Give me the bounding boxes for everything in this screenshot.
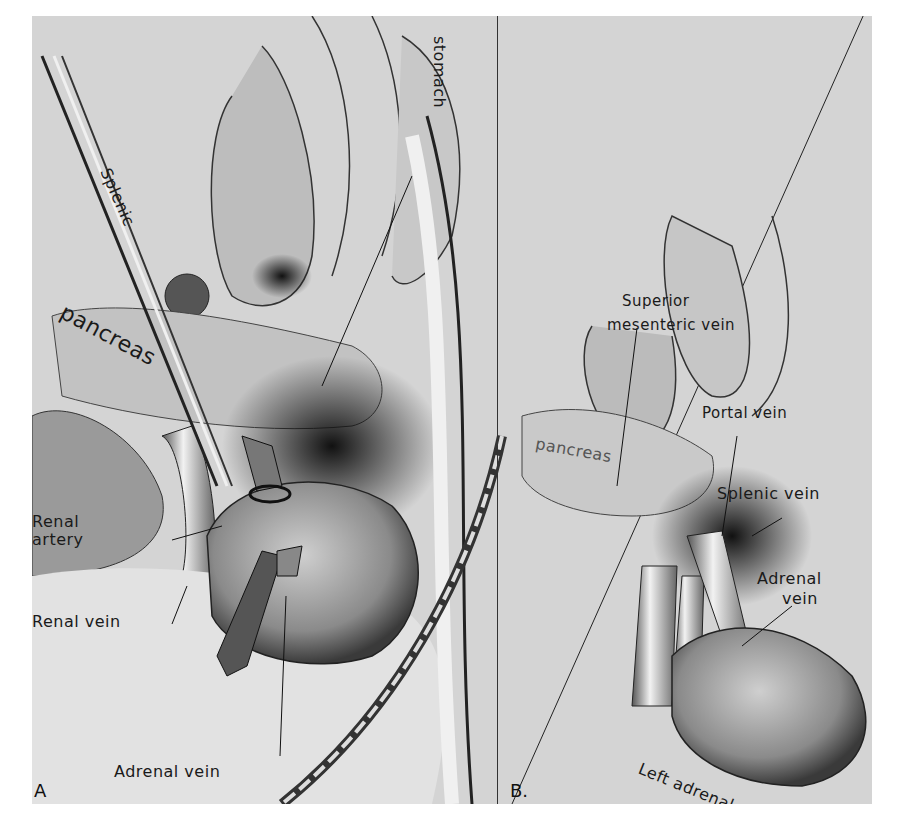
label-mesenteric-vein: mesenteric vein [607, 318, 735, 333]
panel-letter-b: B. [510, 780, 528, 801]
label-adrenal-vein-a: Adrenal vein [114, 764, 220, 780]
panel-divider [497, 16, 498, 804]
label-renal-artery-2: artery [32, 532, 84, 548]
label-splenic-vein: Splenic vein [717, 486, 820, 502]
panel-b-art [512, 16, 872, 804]
panel-letter-a: A [34, 780, 46, 801]
label-adrenal-vein-b-1: Adrenal [757, 571, 822, 587]
panel-a-art [32, 16, 502, 804]
label-superior: Superior [622, 294, 689, 309]
label-portal-vein: Portal vein [702, 406, 787, 421]
label-renal-artery-1: Renal [32, 514, 79, 530]
label-stomach: stomach [431, 36, 447, 108]
anatomical-illustration: Splenic stomach pancreas Renal artery Re… [32, 16, 872, 804]
label-adrenal-vein-b-2: vein [782, 591, 818, 607]
label-renal-vein: Renal vein [32, 614, 121, 630]
